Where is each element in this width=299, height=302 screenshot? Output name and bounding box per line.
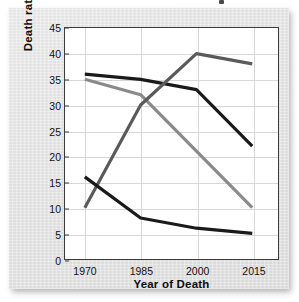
x-tick-label: 1985	[130, 265, 153, 277]
y-tick-label: 25	[37, 126, 61, 138]
y-tick-mark	[65, 261, 69, 262]
series-line-series-4	[85, 177, 252, 233]
data-lines	[65, 28, 278, 259]
image-artifact-speck	[219, 0, 224, 4]
x-tick-label: 2015	[242, 265, 265, 277]
y-tick-label: 10	[37, 203, 61, 215]
plot-area: 051015202530354045 1970198520002015	[64, 27, 279, 260]
x-tick-label: 1970	[73, 265, 96, 277]
y-tick-label: 45	[37, 22, 61, 34]
y-tick-label: 30	[37, 100, 61, 112]
x-axis-title: Year of Death	[64, 278, 279, 290]
y-tick-label: 0	[37, 255, 61, 267]
y-tick-label: 40	[37, 48, 61, 60]
y-axis-title: Death rate per 100,000	[20, 0, 36, 78]
y-tick-label: 20	[37, 151, 61, 163]
chart-screenshot: Death rate per 100,000 Year of Death 051…	[0, 0, 299, 302]
y-tick-label: 5	[37, 229, 61, 241]
y-tick-label: 15	[37, 177, 61, 189]
series-line-series-2	[85, 79, 252, 207]
x-tick-label: 2000	[186, 265, 209, 277]
y-tick-label: 35	[37, 74, 61, 86]
chart-panel: Death rate per 100,000 Year of Death 051…	[8, 7, 289, 289]
